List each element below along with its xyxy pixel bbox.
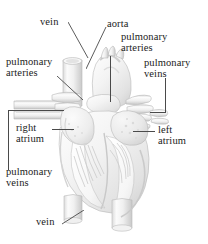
leader-line-right-atrium — [52, 129, 74, 130]
leader-line-pulmonary-veins-right-vertical — [165, 78, 166, 112]
leader-line-pulmonary-arteries-left — [57, 76, 85, 102]
label-vein-bottom: vein — [36, 216, 54, 227]
heart-anatomy-figure: vein pulmonary arteries aorta pulmonary … — [0, 0, 208, 244]
label-pulmonary-arteries-right: pulmonary arteries — [121, 31, 167, 53]
leader-line-pulmonary-arteries-right — [110, 56, 111, 102]
leader-line-vein-bottom — [62, 210, 86, 226]
leader-line-pulmonary-veins-left-vertical — [8, 110, 9, 170]
label-aorta: aorta — [107, 18, 129, 29]
label-pulmonary-veins-right: pulmonary veins — [144, 57, 190, 79]
leader-line-pulmonary-veins-right-horizontal — [150, 112, 166, 113]
leader-line-left-atrium — [133, 131, 155, 132]
label-vein-top: vein — [40, 16, 58, 27]
label-right-atrium: right atrium — [16, 122, 44, 144]
leader-line-pulmonary-veins-left-horizontal — [8, 110, 64, 111]
leader-line-aorta — [86, 27, 108, 71]
label-left-atrium: left atrium — [158, 124, 186, 146]
label-pulmonary-veins-left: pulmonary veins — [6, 166, 52, 188]
label-pulmonary-arteries-left: pulmonary arteries — [6, 56, 52, 78]
